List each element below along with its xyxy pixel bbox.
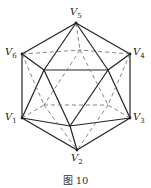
label-v2: V2 — [71, 153, 83, 166]
icosahedron-figure: V5 V6 V4 V1 V3 V2 图 10 — [0, 0, 151, 188]
hidden-edges — [22, 23, 130, 150]
label-v4: V4 — [133, 47, 145, 60]
label-v5: V5 — [70, 7, 82, 20]
label-v3: V3 — [133, 112, 145, 125]
vertex-dots — [21, 22, 132, 152]
visible-edges — [22, 23, 130, 150]
label-v6: V6 — [5, 47, 17, 60]
label-v1: V1 — [5, 112, 17, 125]
figure-caption: 图 10 — [0, 172, 151, 187]
